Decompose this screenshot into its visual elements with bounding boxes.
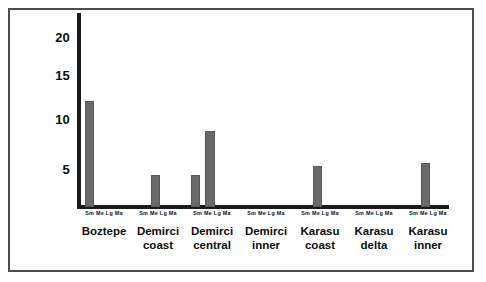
category-group: Sm Me Lg MaKarasu inner	[401, 209, 455, 252]
category-group: Sm Me Lg MaKarasu delta	[347, 209, 401, 252]
bar	[205, 131, 215, 207]
chart-figure: 2015105 Sm Me Lg MaBoztepeSm Me Lg MaDem…	[0, 0, 486, 282]
y-tick-label-20: 20	[40, 30, 70, 45]
bar	[313, 166, 322, 207]
category-group: Sm Me Lg MaDemirci inner	[239, 209, 293, 252]
category-group: Sm Me Lg MaBoztepe	[77, 209, 131, 238]
category-label: Demirci inner	[239, 224, 293, 252]
category-label: Karasu inner	[401, 224, 455, 252]
subcategory-tick-labels: Sm Me Lg Ma	[131, 209, 185, 217]
category-label: Demirci coast	[131, 224, 185, 252]
bar	[151, 175, 160, 207]
plot-area: 2015105 Sm Me Lg MaBoztepeSm Me Lg MaDem…	[0, 0, 486, 282]
subcategory-tick-labels: Sm Me Lg Ma	[185, 209, 239, 217]
category-label: Demirci central	[185, 224, 239, 252]
category-label: Karasu coast	[293, 224, 347, 252]
subcategory-tick-labels: Sm Me Lg Ma	[401, 209, 455, 217]
category-label: Karasu delta	[347, 224, 401, 252]
subcategory-tick-labels: Sm Me Lg Ma	[293, 209, 347, 217]
category-group: Sm Me Lg MaDemirci central	[185, 209, 239, 252]
y-axis-line	[77, 13, 81, 209]
category-group: Sm Me Lg MaDemirci coast	[131, 209, 185, 252]
subcategory-tick-labels: Sm Me Lg Ma	[239, 209, 293, 217]
y-tick-label-10: 10	[40, 112, 70, 127]
category-group: Sm Me Lg MaKarasu coast	[293, 209, 347, 252]
bar	[85, 101, 94, 207]
y-tick-label-5: 5	[40, 162, 70, 177]
bar	[421, 163, 430, 207]
bar	[191, 175, 200, 207]
y-tick-label-15: 15	[40, 68, 70, 83]
subcategory-tick-labels: Sm Me Lg Ma	[77, 209, 131, 217]
subcategory-tick-labels: Sm Me Lg Ma	[347, 209, 401, 217]
category-label: Boztepe	[77, 224, 131, 238]
y-axis-tick-labels: 2015105	[32, 0, 70, 282]
